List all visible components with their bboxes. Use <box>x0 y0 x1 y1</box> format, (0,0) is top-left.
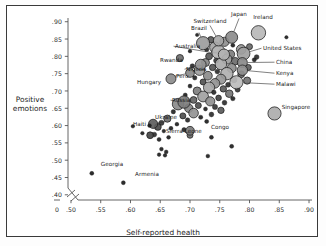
point-label-japan: Japan <box>199 11 279 17</box>
point-label-ukraine: Ukraine <box>126 114 206 120</box>
data-point <box>252 58 256 62</box>
x-tick-label: .75 <box>209 206 231 213</box>
point-label-haiti: Haiti <box>133 121 146 127</box>
data-point-kenya <box>237 65 247 75</box>
data-point <box>285 36 288 39</box>
point-label-armenia: Armenia <box>107 171 187 177</box>
point-label-hungary: Hungary <box>137 79 161 85</box>
x-tick-label: .80 <box>239 206 261 213</box>
point-label-china: China <box>276 59 292 65</box>
data-point-sierra-leone <box>147 132 154 139</box>
point-label-australia: Australia <box>175 43 200 49</box>
data-point <box>203 107 207 111</box>
point-label-nigeria: Nigeria <box>186 66 206 72</box>
data-point-switzerland <box>213 36 223 46</box>
data-point <box>195 33 198 36</box>
data-point <box>212 90 217 95</box>
data-point <box>244 77 251 84</box>
data-point <box>164 150 168 154</box>
data-point <box>195 103 201 109</box>
x-axis-title: Self-reported health <box>0 228 326 237</box>
y-tick-label: .85 <box>40 36 62 43</box>
y-tick-label: .70 <box>40 88 62 95</box>
data-point-hungary <box>166 74 176 84</box>
data-point-australia <box>218 49 229 60</box>
data-point <box>215 69 220 74</box>
y-tick-label: .60 <box>40 122 62 129</box>
data-point <box>230 144 234 148</box>
data-point <box>175 122 179 126</box>
data-point <box>222 100 227 105</box>
data-point-japan <box>226 31 238 43</box>
data-point <box>231 43 235 47</box>
y-tick-label: .90 <box>40 18 62 25</box>
x-tick-label: .70 <box>179 206 201 213</box>
data-point <box>157 137 161 141</box>
data-point <box>216 95 222 101</box>
y-tick-label: .45 <box>40 174 62 181</box>
data-point <box>141 131 145 135</box>
x-tick-label: .50 <box>60 206 82 213</box>
data-point-armenia <box>121 181 125 185</box>
point-label-switzerland: Switzerland <box>170 18 250 24</box>
y-tick-label: .55 <box>40 139 62 146</box>
y-tick-label: .75 <box>40 70 62 77</box>
point-label-rwanda: Rwanda <box>160 57 183 63</box>
data-point <box>188 84 192 88</box>
data-point <box>203 71 212 80</box>
data-point-ireland <box>251 26 265 40</box>
point-label-united-states: United States <box>263 45 302 51</box>
data-point <box>157 153 161 157</box>
data-point-georgia <box>90 171 94 175</box>
y-tick-label: .40 <box>40 191 62 198</box>
point-label-sierra-leone: Sierra Leone <box>166 128 202 134</box>
y-axis-title-line1: Positive <box>6 95 54 104</box>
point-label-peru: Peru <box>176 73 189 79</box>
data-point <box>163 154 167 158</box>
point-label-congo: Congo <box>211 124 229 130</box>
data-point <box>206 154 210 158</box>
figure-container: Positive emotions Self-reported health .… <box>0 0 326 246</box>
x-tick-label: .85 <box>268 206 290 213</box>
point-label-russia: Russia <box>172 97 190 103</box>
y-tick-label: .80 <box>40 53 62 60</box>
data-point <box>231 96 235 100</box>
y-tick-label: .50 <box>40 157 62 164</box>
data-point <box>167 135 171 139</box>
point-label-singapore: Singapore <box>256 104 326 110</box>
data-point <box>218 107 224 113</box>
x-tick-label: .55 <box>90 206 112 213</box>
x-tick-label: .65 <box>149 206 171 213</box>
point-label-brazil: Brazil <box>159 25 239 31</box>
data-point <box>190 97 197 104</box>
data-point <box>209 112 214 117</box>
data-point <box>209 135 213 139</box>
point-label-georgia: Georgia <box>72 161 152 167</box>
x-tick-label: .60 <box>119 206 141 213</box>
data-point <box>220 86 226 92</box>
data-point <box>188 49 192 53</box>
data-point-haiti <box>148 124 152 128</box>
point-label-kenya: Kenya <box>276 70 293 76</box>
data-point <box>160 147 164 151</box>
data-point-malawi <box>230 76 243 89</box>
point-label-malawi: Malawi <box>276 81 296 87</box>
data-point <box>209 64 215 70</box>
y-tick-label: .65 <box>40 105 62 112</box>
x-tick-label: .90 <box>298 206 320 213</box>
data-point <box>212 104 217 109</box>
